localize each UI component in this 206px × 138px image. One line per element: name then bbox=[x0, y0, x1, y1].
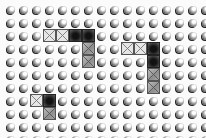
board-tile-dark[interactable] bbox=[147, 42, 160, 55]
board-tile-dark[interactable] bbox=[147, 55, 160, 68]
board-hole[interactable] bbox=[43, 81, 56, 94]
board-hole[interactable] bbox=[121, 120, 134, 133]
board-hole[interactable] bbox=[173, 55, 186, 68]
board-hole[interactable] bbox=[17, 42, 30, 55]
board-hole[interactable] bbox=[17, 29, 30, 42]
board-hole[interactable] bbox=[173, 107, 186, 120]
board-hole[interactable] bbox=[160, 42, 173, 55]
board-hole[interactable] bbox=[82, 81, 95, 94]
board-hole[interactable] bbox=[17, 81, 30, 94]
board-hole[interactable] bbox=[30, 29, 43, 42]
board-hole[interactable] bbox=[4, 81, 17, 94]
board-hole[interactable] bbox=[121, 29, 134, 42]
board-hole[interactable] bbox=[199, 29, 206, 42]
board-hole[interactable] bbox=[121, 133, 134, 138]
board-hole[interactable] bbox=[95, 94, 108, 107]
board-hole[interactable] bbox=[147, 29, 160, 42]
board-hole[interactable] bbox=[69, 55, 82, 68]
board-hole[interactable] bbox=[69, 133, 82, 138]
board-hole[interactable] bbox=[56, 120, 69, 133]
board-hole[interactable] bbox=[4, 42, 17, 55]
board-hole[interactable] bbox=[4, 94, 17, 107]
board-hole[interactable] bbox=[186, 120, 199, 133]
board-hole[interactable] bbox=[199, 107, 206, 120]
board-hole[interactable] bbox=[147, 120, 160, 133]
board-hole[interactable] bbox=[69, 120, 82, 133]
board-hole[interactable] bbox=[17, 107, 30, 120]
board-hole[interactable] bbox=[30, 120, 43, 133]
board-hole[interactable] bbox=[56, 94, 69, 107]
board-hole[interactable] bbox=[186, 133, 199, 138]
board-hole[interactable] bbox=[4, 16, 17, 29]
board-hole[interactable] bbox=[134, 55, 147, 68]
board-hole[interactable] bbox=[82, 120, 95, 133]
board-hole[interactable] bbox=[173, 133, 186, 138]
board-hole[interactable] bbox=[108, 120, 121, 133]
board-tile-medium[interactable] bbox=[82, 55, 95, 68]
board-hole[interactable] bbox=[108, 81, 121, 94]
board-hole[interactable] bbox=[95, 107, 108, 120]
board-hole[interactable] bbox=[30, 107, 43, 120]
board-hole[interactable] bbox=[69, 42, 82, 55]
board-hole[interactable] bbox=[43, 16, 56, 29]
board-hole[interactable] bbox=[95, 81, 108, 94]
board-hole[interactable] bbox=[186, 81, 199, 94]
board-hole[interactable] bbox=[43, 55, 56, 68]
board-hole[interactable] bbox=[199, 120, 206, 133]
board-hole[interactable] bbox=[160, 107, 173, 120]
board-hole[interactable] bbox=[160, 16, 173, 29]
board-hole[interactable] bbox=[134, 94, 147, 107]
board-hole[interactable] bbox=[186, 42, 199, 55]
board-hole[interactable] bbox=[4, 29, 17, 42]
board-hole[interactable] bbox=[95, 3, 108, 16]
board-hole[interactable] bbox=[108, 3, 121, 16]
board-hole[interactable] bbox=[108, 29, 121, 42]
board-hole[interactable] bbox=[199, 68, 206, 81]
board-hole[interactable] bbox=[134, 29, 147, 42]
board-hole[interactable] bbox=[95, 42, 108, 55]
board-hole[interactable] bbox=[173, 68, 186, 81]
board-hole[interactable] bbox=[56, 68, 69, 81]
board-hole[interactable] bbox=[160, 3, 173, 16]
board-hole[interactable] bbox=[147, 107, 160, 120]
board-hole[interactable] bbox=[173, 16, 186, 29]
board-hole[interactable] bbox=[95, 29, 108, 42]
board-hole[interactable] bbox=[17, 133, 30, 138]
board-hole[interactable] bbox=[17, 94, 30, 107]
board-hole[interactable] bbox=[134, 16, 147, 29]
board-hole[interactable] bbox=[186, 94, 199, 107]
board-tile-medium[interactable] bbox=[147, 81, 160, 94]
board-hole[interactable] bbox=[147, 16, 160, 29]
board-hole[interactable] bbox=[121, 68, 134, 81]
board-hole[interactable] bbox=[173, 94, 186, 107]
board-hole[interactable] bbox=[43, 68, 56, 81]
board-hole[interactable] bbox=[43, 133, 56, 138]
board-hole[interactable] bbox=[69, 68, 82, 81]
board-hole[interactable] bbox=[160, 120, 173, 133]
board-hole[interactable] bbox=[4, 120, 17, 133]
board-hole[interactable] bbox=[134, 107, 147, 120]
board-hole[interactable] bbox=[199, 81, 206, 94]
board-hole[interactable] bbox=[121, 107, 134, 120]
board-hole[interactable] bbox=[173, 42, 186, 55]
board-hole[interactable] bbox=[199, 94, 206, 107]
board-hole[interactable] bbox=[4, 55, 17, 68]
board-hole[interactable] bbox=[95, 16, 108, 29]
game-board[interactable] bbox=[0, 0, 206, 138]
board-hole[interactable] bbox=[82, 16, 95, 29]
board-hole[interactable] bbox=[69, 81, 82, 94]
board-hole[interactable] bbox=[56, 55, 69, 68]
board-hole[interactable] bbox=[147, 3, 160, 16]
board-hole[interactable] bbox=[69, 107, 82, 120]
board-hole[interactable] bbox=[121, 55, 134, 68]
board-hole[interactable] bbox=[108, 94, 121, 107]
board-hole[interactable] bbox=[95, 55, 108, 68]
board-hole[interactable] bbox=[108, 68, 121, 81]
board-hole[interactable] bbox=[56, 3, 69, 16]
board-hole[interactable] bbox=[56, 107, 69, 120]
board-hole[interactable] bbox=[95, 133, 108, 138]
board-hole[interactable] bbox=[186, 29, 199, 42]
board-tile-medium[interactable] bbox=[43, 107, 56, 120]
board-hole[interactable] bbox=[186, 107, 199, 120]
board-hole[interactable] bbox=[56, 16, 69, 29]
